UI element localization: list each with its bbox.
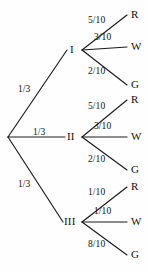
- root-branch-probability-2: 1/3: [33, 128, 45, 138]
- edge-root-to-iii: [8, 137, 63, 222]
- branch-probability-i-g: 2/10: [88, 67, 105, 77]
- branch-probability-ii-w: 3/10: [94, 122, 111, 132]
- node-label-ii: II: [67, 131, 75, 142]
- branch-probability-iii-w: 1/10: [94, 207, 111, 217]
- leaf-label-ii-g: G: [131, 164, 139, 175]
- root-branch-probability-3: 1/3: [18, 180, 30, 190]
- branch-probability-i-w: 3/10: [94, 33, 111, 43]
- leaf-label-iii-r: R: [131, 181, 138, 192]
- edge-root-to-i: [8, 50, 67, 137]
- edge-i-to-w: [82, 47, 127, 50]
- node-label-iii: III: [64, 216, 76, 227]
- branch-probability-ii-r: 5/10: [88, 102, 105, 112]
- leaf-label-ii-r: R: [131, 94, 138, 105]
- leaf-label-i-r: R: [131, 9, 138, 20]
- branch-probability-iii-r: 1/10: [88, 188, 105, 198]
- node-label-i: I: [70, 44, 74, 55]
- branch-probability-i-r: 5/10: [88, 16, 105, 26]
- root-branch-probability-1: 1/3: [18, 85, 30, 95]
- branch-probability-ii-g: 2/10: [88, 155, 105, 165]
- leaf-label-iii-g: G: [131, 249, 139, 260]
- leaf-label-i-w: W: [131, 41, 141, 52]
- probability-tree-diagram: 1/3 1/3 1/3 I II III 5/10 3/10 2/10 R W …: [0, 0, 148, 272]
- leaf-label-ii-w: W: [131, 131, 141, 142]
- branch-probability-iii-g: 8/10: [88, 240, 105, 250]
- leaf-label-i-g: G: [131, 79, 139, 90]
- leaf-label-iii-w: W: [131, 216, 141, 227]
